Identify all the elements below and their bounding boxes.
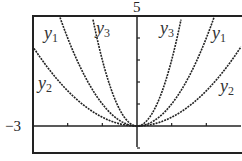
curve-label-y3-right: y3 [160,19,174,39]
curve-label-y3-left: y3 [96,19,110,39]
y-max-label: 5 [133,0,141,15]
curve-label-y1-right: y1 [212,24,226,44]
x-min-label: −3 [5,119,21,134]
curve-label-y1-left: y1 [44,24,58,44]
curve-label-y2-right: y2 [220,77,234,97]
curve-label-y2-left: y2 [38,74,52,94]
plot-area [0,0,242,161]
